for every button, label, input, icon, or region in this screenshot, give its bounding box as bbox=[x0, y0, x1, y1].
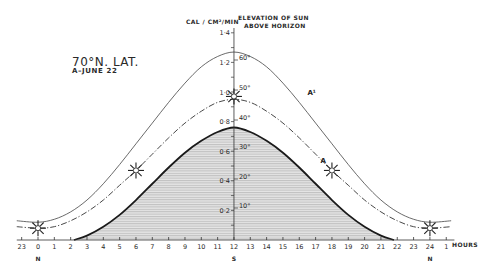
x-tick-label: 8 bbox=[167, 243, 171, 251]
compass-label: N bbox=[427, 255, 432, 262]
y2-axis-label-line1: ELEVATION OF SUN bbox=[238, 14, 309, 21]
x-tick-label: 13 bbox=[246, 243, 254, 251]
x-tick-label: 9 bbox=[183, 243, 187, 251]
chart-subtitle: A–JUNE 22 bbox=[72, 67, 117, 75]
x-tick-label: 5 bbox=[118, 243, 122, 251]
y-tick-label: 0·8 bbox=[220, 118, 230, 126]
x-tick-label: 21 bbox=[377, 243, 385, 251]
sun-marker-icon bbox=[422, 220, 438, 236]
curve-annotation: A bbox=[321, 157, 327, 165]
x-tick-label: 11 bbox=[213, 243, 221, 251]
x-tick-label: 1 bbox=[52, 243, 56, 251]
x-tick-label: 18 bbox=[328, 243, 336, 251]
x-tick-label: 23 bbox=[18, 243, 26, 251]
y-tick-label: 1·0 bbox=[220, 89, 230, 97]
sun-marker-icon bbox=[324, 162, 340, 178]
y-axis-label: CAL / CM²/MIN bbox=[186, 18, 239, 25]
solar-radiation-chart: 2301234567891011121314151617181920212223… bbox=[0, 0, 485, 271]
x-tick-label: 6 bbox=[134, 243, 138, 251]
y-tick-label: 1·2 bbox=[220, 59, 230, 67]
x-tick-label: 10 bbox=[197, 243, 205, 251]
x-tick-label: 19 bbox=[344, 243, 352, 251]
curve-annotation: A¹ bbox=[307, 89, 315, 97]
y2-tick-label: 30° bbox=[239, 143, 251, 151]
x-tick-label: 24 bbox=[426, 243, 434, 251]
y-tick-label: 1·4 bbox=[220, 29, 230, 37]
y2-tick-label: 20° bbox=[239, 173, 251, 181]
x-tick-label: 23 bbox=[409, 243, 417, 251]
x-tick-label: 3 bbox=[85, 243, 89, 251]
x-tick-label: 16 bbox=[295, 243, 303, 251]
x-tick-label: 0 bbox=[36, 243, 40, 251]
y2-tick-label: 10° bbox=[239, 202, 251, 210]
y-tick-label: 0·6 bbox=[220, 148, 230, 156]
y2-axis-label-line2: ABOVE HORIZON bbox=[244, 22, 306, 29]
compass-label: S bbox=[232, 255, 236, 262]
compass-label: N bbox=[35, 255, 40, 262]
y2-tick-label: 50° bbox=[239, 84, 251, 92]
sun-marker-icon bbox=[128, 162, 144, 178]
x-tick-label: 20 bbox=[360, 243, 368, 251]
y2-tick-label: 40° bbox=[239, 114, 251, 122]
x-tick-label: 17 bbox=[311, 243, 319, 251]
x-tick-label: 14 bbox=[262, 243, 270, 251]
x-tick-label: 22 bbox=[393, 243, 401, 251]
x-tick-label: 4 bbox=[101, 243, 105, 251]
x-tick-label: 2 bbox=[69, 243, 73, 251]
x-tick-label: 7 bbox=[150, 243, 154, 251]
x-tick-label: 1 bbox=[444, 243, 448, 251]
y-tick-label: 0·2 bbox=[220, 207, 230, 215]
x-tick-label: 12 bbox=[230, 243, 238, 251]
x-axis-unit-label: HOURS bbox=[452, 241, 478, 248]
y2-tick-label: 60° bbox=[239, 54, 251, 62]
y-tick-label: 0·4 bbox=[220, 177, 230, 185]
sun-marker-icon bbox=[30, 220, 46, 236]
x-tick-label: 15 bbox=[279, 243, 287, 251]
